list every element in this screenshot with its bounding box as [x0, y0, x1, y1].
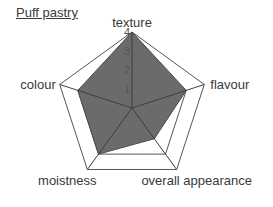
tick-label: 3: [124, 45, 130, 57]
tick-label: 1: [124, 83, 130, 95]
radar-chart: 1234textureflavouroverall appearancemois…: [0, 0, 273, 207]
tick-label: 2: [124, 64, 130, 76]
category-label: moistness: [38, 173, 97, 188]
category-label: colour: [20, 77, 56, 92]
category-label: overall appearance: [141, 173, 252, 188]
category-label: texture: [112, 15, 152, 30]
category-label: flavour: [210, 77, 250, 92]
